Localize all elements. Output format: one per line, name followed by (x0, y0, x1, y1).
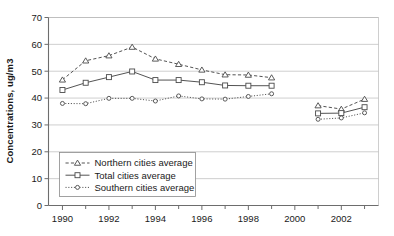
series-2 (60, 69, 367, 116)
data-point-marker (339, 111, 344, 116)
series-path (62, 47, 271, 80)
data-point-marker (316, 117, 320, 121)
data-point-marker (199, 80, 204, 85)
data-point-marker (130, 69, 135, 74)
data-point-marker (152, 56, 158, 61)
data-point-marker (130, 96, 134, 100)
data-point-marker (176, 78, 181, 83)
data-point-marker (83, 80, 88, 85)
legend-item-label: Total cities average (95, 170, 176, 181)
data-point-marker (246, 83, 251, 88)
y-tick-label: 70 (31, 12, 42, 23)
data-point-marker (223, 83, 228, 88)
data-point-marker (200, 97, 204, 101)
y-tick-label: 60 (31, 39, 42, 50)
data-point-marker (83, 58, 89, 63)
y-tick-label: 10 (31, 173, 42, 184)
data-point-marker (75, 173, 80, 178)
x-tick-label: 1992 (98, 213, 119, 224)
x-tick-label: 2002 (331, 213, 352, 224)
data-point-marker (153, 99, 157, 103)
data-point-marker (270, 92, 274, 96)
chart-legend: Northern cities averageTotal cities aver… (60, 153, 196, 197)
data-point-marker (177, 94, 181, 98)
data-point-marker (153, 78, 158, 83)
data-series-layer (59, 44, 367, 121)
y-axis-title: Concentrations, ug/m3 (4, 58, 15, 163)
legend-item-label: Northern cities average (95, 157, 193, 168)
data-point-marker (361, 96, 367, 101)
data-point-marker (60, 88, 65, 93)
data-point-marker (246, 94, 250, 98)
y-tick-label: 40 (31, 92, 42, 103)
x-tick-label: 1994 (145, 213, 166, 224)
data-point-marker (339, 116, 343, 120)
data-point-marker (316, 111, 321, 116)
data-point-marker (76, 185, 80, 189)
chart-container: Concentrations, ug/m3 010203040506070 19… (0, 0, 394, 236)
data-point-marker (60, 101, 64, 105)
data-point-marker (129, 44, 135, 49)
y-tick-label: 0 (37, 200, 42, 211)
data-point-marker (315, 103, 321, 108)
x-tick-label: 2000 (284, 213, 305, 224)
x-tick-label: 1998 (238, 213, 259, 224)
data-point-marker (363, 111, 367, 115)
y-tick-label: 30 (31, 119, 42, 130)
x-tick-label: 1990 (52, 213, 73, 224)
series-path (62, 71, 271, 90)
series-path (62, 94, 271, 104)
x-tick-label: 1996 (191, 213, 212, 224)
data-point-marker (223, 97, 227, 101)
data-point-marker (269, 83, 274, 88)
x-axis-ticks: 1990199219941996199820002002 (52, 206, 365, 224)
data-point-marker (268, 75, 274, 80)
legend-item-label: Southern cities average (95, 182, 195, 193)
data-point-marker (362, 105, 367, 110)
data-point-marker (199, 67, 205, 72)
data-point-marker (84, 102, 88, 106)
y-tick-label: 50 (31, 66, 42, 77)
y-axis-ticks: 010203040506070 (31, 12, 48, 211)
y-tick-label: 20 (31, 146, 42, 157)
data-point-marker (106, 75, 111, 80)
line-chart: Concentrations, ug/m3 010203040506070 19… (0, 0, 394, 236)
data-point-marker (107, 96, 111, 100)
